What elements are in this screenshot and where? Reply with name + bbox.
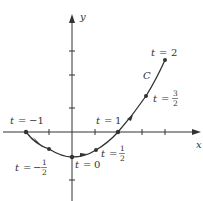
curve-label: C: [143, 70, 151, 81]
svg-text:2: 2: [171, 47, 177, 58]
svg-text:t: t: [96, 115, 101, 126]
svg-text:−1: −1: [29, 115, 44, 126]
y-axis: [69, 14, 75, 201]
svg-text:=: =: [109, 148, 117, 159]
point-t-half: [94, 148, 98, 152]
label-t-neghalf: t = − 1 2: [15, 158, 47, 177]
y-axis-arrow-icon: [69, 14, 75, 23]
svg-text:=: =: [23, 162, 31, 173]
point-t-threehalf: [144, 94, 148, 98]
svg-text:t: t: [15, 162, 20, 173]
point-t-0: [70, 155, 74, 159]
svg-text:t: t: [151, 47, 156, 58]
svg-text:1: 1: [120, 144, 125, 153]
point-t-neg1: [24, 130, 28, 134]
svg-text:=: =: [18, 115, 26, 126]
svg-text:3: 3: [173, 89, 178, 98]
point-t-2: [163, 58, 167, 62]
y-axis-label: y: [79, 11, 86, 22]
svg-text:t: t: [101, 148, 106, 159]
point-t-1: [116, 130, 120, 134]
svg-text:0: 0: [94, 159, 100, 170]
svg-text:=: =: [161, 93, 169, 104]
parametric-curve-diagram: x y C t = 2 t = 3 2 t = −1: [0, 0, 203, 201]
label-t-0: t = 0: [75, 159, 100, 170]
label-t-neg1: t = −1: [10, 115, 44, 126]
x-axis-arrow-icon: [192, 129, 201, 135]
point-t-neghalf: [47, 147, 51, 151]
x-axis: [3, 129, 201, 135]
svg-text:=: =: [83, 159, 91, 170]
svg-text:−: −: [33, 162, 41, 173]
label-t-half: t = 1 2: [101, 144, 125, 163]
svg-text:=: =: [104, 115, 112, 126]
svg-text:1: 1: [42, 158, 47, 167]
label-t-2: t = 2: [151, 47, 177, 58]
svg-text:=: =: [159, 47, 167, 58]
svg-text:t: t: [153, 93, 158, 104]
svg-text:1: 1: [115, 115, 121, 126]
label-t-1: t = 1: [96, 115, 121, 126]
svg-text:2: 2: [42, 168, 47, 177]
label-t-threehalf: t = 3 2: [153, 89, 178, 108]
x-axis-label: x: [196, 139, 202, 150]
svg-text:t: t: [10, 115, 15, 126]
svg-text:2: 2: [120, 154, 125, 163]
svg-text:t: t: [75, 159, 80, 170]
svg-text:2: 2: [173, 99, 178, 108]
